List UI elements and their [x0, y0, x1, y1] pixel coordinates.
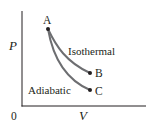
point-b	[88, 71, 92, 75]
pv-diagram: A B C Isothermal Adiabatic P V 0	[0, 0, 157, 125]
pv-diagram-svg: A B C Isothermal Adiabatic P V 0	[0, 0, 157, 125]
point-c	[88, 88, 92, 92]
isothermal-label: Isothermal	[68, 45, 115, 57]
point-a-label: A	[43, 14, 52, 26]
y-axis-label: P	[8, 38, 17, 53]
x-axis-label: V	[79, 108, 89, 123]
adiabatic-label: Adiabatic	[28, 84, 71, 96]
origin-label: 0	[11, 110, 17, 122]
point-a	[46, 27, 50, 31]
point-b-label: B	[95, 67, 103, 79]
point-c-label: C	[95, 85, 103, 97]
